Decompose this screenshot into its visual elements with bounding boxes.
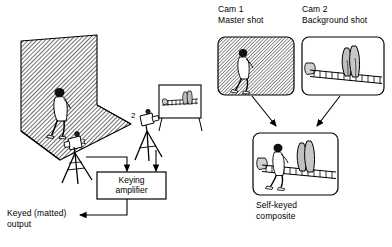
composite-caption-line1: Self-keyed — [256, 200, 297, 211]
monitor-background-shot — [302, 37, 384, 95]
camera-2 — [135, 109, 162, 161]
background-panel — [159, 85, 202, 131]
cam1-caption-line2: Master shot — [218, 15, 264, 26]
composite-feed-arrows — [252, 96, 340, 126]
cam2-caption-line2: Background shot — [302, 15, 367, 26]
monitor-self-keyed-composite — [253, 133, 338, 195]
composite-caption-line2: composite — [256, 211, 296, 222]
keying-amplifier-label-line2: amplifier — [97, 185, 166, 195]
chroma-key-diagram: Cam 1 Master shot Cam 2 Background shot … — [0, 0, 392, 247]
monitor-master-shot — [218, 37, 294, 95]
camera-1-number-label: 1 — [82, 137, 86, 146]
keying-amplifier-label-line1: Keying — [97, 175, 166, 185]
cam1-caption-line1: Cam 1 — [218, 4, 244, 15]
cam2-caption-line1: Cam 2 — [302, 4, 328, 15]
output-label-line1: Keyed (matted) — [7, 208, 67, 219]
output-label-line2: output — [7, 219, 31, 230]
camera-2-number-label: 2 — [131, 111, 135, 120]
